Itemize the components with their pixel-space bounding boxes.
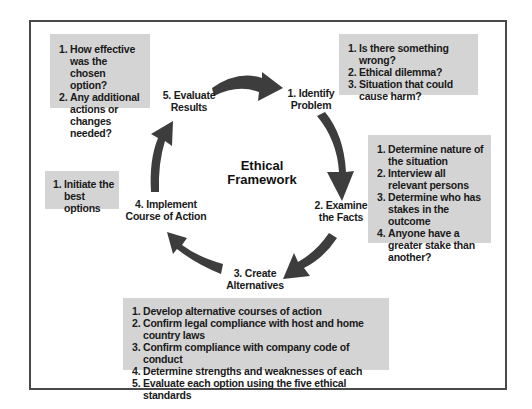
stage-label: Alternatives: [210, 279, 300, 291]
note-item: 4.Determine strengths and weaknesses of …: [132, 365, 383, 377]
stage-label: 1. Identify: [276, 87, 346, 99]
stage-identify: 1. Identify Problem: [276, 87, 346, 111]
note-create: 1.Develop alternative courses of action …: [123, 298, 389, 370]
stage-implement: 4. Implement Course of Action: [121, 198, 211, 222]
note-item: 1.Initiate the best options: [53, 178, 115, 214]
note-evaluate: 1.How effective was the chosen option? 2…: [50, 34, 150, 108]
note-item: 3.Determine who has stakes in the outcom…: [377, 191, 485, 227]
stage-create: 3. Create Alternatives: [210, 267, 300, 291]
note-item: 1.How effective was the chosen option?: [59, 43, 144, 91]
stage-examine: 2. Examine the Facts: [306, 199, 376, 223]
note-implement: 1.Initiate the best options: [45, 171, 119, 209]
stage-evaluate: 5. Evaluate Results: [154, 89, 224, 113]
stage-label: Course of Action: [121, 210, 211, 222]
stage-label: 2. Examine: [306, 199, 376, 211]
center-title-line: Framework: [222, 173, 302, 187]
stage-label: the Facts: [306, 211, 376, 223]
note-examine: 1.Determine nature of the situation 2.In…: [368, 135, 491, 243]
note-item: 3.Confirm compliance with company code o…: [132, 341, 383, 365]
arrow-implement-to-evaluate-icon: [151, 121, 173, 192]
note-item: 5.Evaluate each option using the five et…: [132, 377, 383, 401]
stage-label: 5. Evaluate: [154, 89, 224, 101]
note-item: 1.Develop alternative courses of action: [132, 305, 383, 317]
note-identify: 1.Is there something wrong? 2.Ethical di…: [339, 34, 478, 95]
note-item: 2.Any additional actions or changes need…: [59, 91, 144, 139]
stage-label: Problem: [276, 99, 346, 111]
note-item: 1.Determine nature of the situation: [377, 143, 485, 167]
note-item: 2.Ethical dilemma?: [348, 66, 472, 78]
center-title: Ethical Framework: [222, 159, 302, 187]
center-title-line: Ethical: [222, 159, 302, 173]
stage-label: 3. Create: [210, 267, 300, 279]
note-item: 2.Interview all relevant persons: [377, 167, 485, 191]
note-item: 1.Is there something wrong?: [348, 42, 472, 66]
stage-label: 4. Implement: [121, 198, 211, 210]
stage-label: Results: [154, 101, 224, 113]
note-item: 3.Situation that could cause harm?: [348, 78, 472, 102]
note-item: 4.Anyone have a greater stake than anoth…: [377, 227, 485, 263]
arrow-identify-to-examine-icon: [317, 112, 354, 201]
note-item: 2.Confirm legal compliance with host and…: [132, 317, 383, 341]
